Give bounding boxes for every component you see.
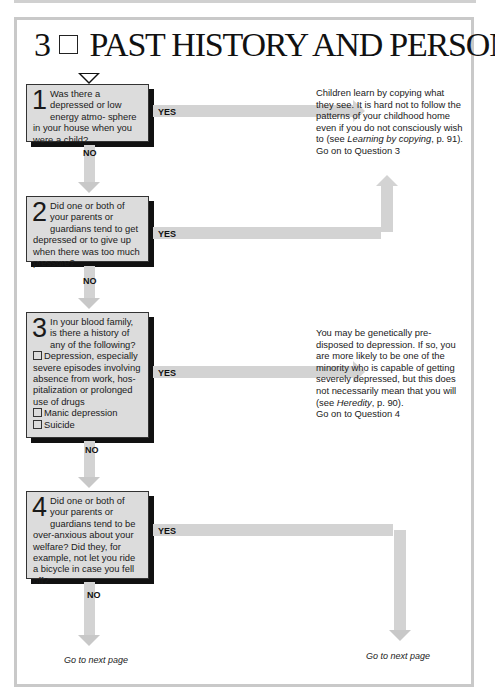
question-box-1: 1 Was there a depressed or low energy at… xyxy=(26,84,149,142)
result-after: , p. 91). xyxy=(431,133,463,144)
arrow-down-icon xyxy=(78,182,100,193)
result-next: Go on to Question 4 xyxy=(316,408,400,419)
option-2: Manic depression xyxy=(44,407,117,418)
page-top-strip xyxy=(14,0,476,3)
question-number: 1 xyxy=(32,89,47,111)
result-body: You may be genetically pre-disposed to d… xyxy=(316,327,456,408)
yes-connector-2 xyxy=(153,227,381,239)
page-title: 3 PAST HISTORY AND PERSONALITY xyxy=(34,26,495,64)
yes-connector-2-riser xyxy=(381,186,393,232)
question-box-4: 4 Did one or both of your parents or gua… xyxy=(26,491,149,579)
arrow-down-icon xyxy=(78,635,100,646)
yes-label-4: YES xyxy=(158,526,176,536)
no-label-3: NO xyxy=(85,445,99,455)
yes-connector-4-drop xyxy=(394,530,406,630)
yes-connector-4 xyxy=(153,524,393,536)
result-next: Go on to Question 3 xyxy=(316,145,400,156)
no-label-2: NO xyxy=(83,276,97,286)
no-label-4: NO xyxy=(87,590,101,600)
question-box-3: 3 In your blood family, is there a histo… xyxy=(26,312,149,438)
question-number: 4 xyxy=(32,496,47,518)
result-text-1: Children learn by copying what they see.… xyxy=(316,87,464,157)
checkbox-icon xyxy=(33,408,42,417)
option-3: Suicide xyxy=(44,419,75,430)
yes-label-1: YES xyxy=(158,107,176,117)
result-after: , p. 90). xyxy=(372,397,404,408)
checkbox-icon xyxy=(33,420,42,429)
arrow-down-icon xyxy=(389,630,411,641)
checkbox-square-icon xyxy=(59,35,78,54)
checkbox-icon xyxy=(33,351,42,360)
start-triangle-icon xyxy=(78,73,100,84)
result-text-2: You may be genetically pre-disposed to d… xyxy=(316,327,466,420)
result-ref: Learning by copying xyxy=(347,133,431,144)
yes-label-2: YES xyxy=(158,229,176,239)
go-to-next-page-right: Go to next page xyxy=(366,651,430,661)
yes-label-3: YES xyxy=(158,368,176,378)
arrow-down-icon xyxy=(78,477,100,488)
go-to-next-page-left: Go to next page xyxy=(64,655,128,665)
result-ref: Heredity xyxy=(337,397,372,408)
question-number: 3 xyxy=(32,317,47,339)
option-1: Depression, especially severe episodes i… xyxy=(33,350,140,407)
question-box-2: 2 Did one or both of your parents or gua… xyxy=(26,196,149,262)
arrow-down-icon xyxy=(78,298,100,309)
no-label-1: NO xyxy=(83,148,97,158)
section-title: PAST HISTORY AND PERSONALITY xyxy=(89,26,495,63)
question-rest: the following? xyxy=(78,339,135,350)
arrow-up-icon xyxy=(376,175,398,186)
question-number: 2 xyxy=(32,201,47,223)
section-number: 3 xyxy=(34,26,50,63)
